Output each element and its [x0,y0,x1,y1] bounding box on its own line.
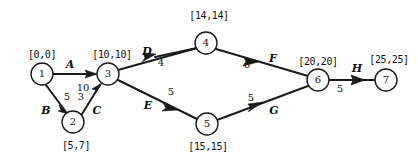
edge-duration-E: 5 [168,87,174,97]
node-label-6: 6 [315,75,321,85]
node-label-5: 5 [204,119,210,129]
node-times-2: [5,7] [62,141,90,151]
network-diagram-canvas: 1 2 3 4 5 6 7 [0,0] [5,7] [10,10] [14,14… [0,0,418,163]
node-times-5: [15,15] [188,142,227,152]
edge-A [53,70,97,78]
edge-label-G: G [269,105,278,116]
edge-duration-B: 5 [64,92,70,102]
node-times-1: [0,0] [28,50,56,60]
edge-duration-F: 6 [244,60,250,70]
edge-G [217,86,308,120]
edge-duration-H: 5 [337,84,343,94]
edge-label-C: C [93,105,102,116]
node-label-4: 4 [203,38,209,48]
node-times-3: [10,10] [92,50,131,60]
node-label-3: 3 [105,69,111,79]
edge-label-B: B [41,105,50,116]
node-label-1: 1 [39,69,45,79]
edge-duration-G: 5 [248,93,254,103]
edge-label-H: H [352,63,362,74]
edge-F [216,49,308,76]
edge-label-D: D [142,46,152,57]
node-label-2: 2 [70,117,76,127]
edge-label-F: F [269,53,277,64]
node-label-7: 7 [383,75,389,85]
edge-duration-C: 3 [78,92,84,102]
edge-E [118,80,197,119]
edge-label-E: E [144,100,152,111]
edge-label-A: A [66,59,75,70]
node-times-4: [14,14] [189,11,228,21]
node-times-7: [25,25] [369,55,408,65]
edge-duration-D: 4 [158,58,164,68]
node-times-6: [20,20] [298,57,337,67]
diagram-svg [0,0,418,163]
